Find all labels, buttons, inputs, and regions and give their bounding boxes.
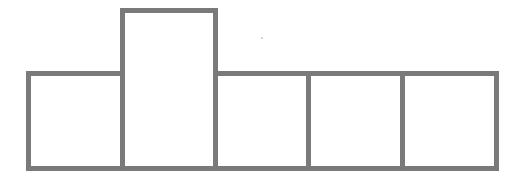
- rectangle-cell-3: [213, 71, 311, 171]
- noise-speck: [261, 37, 263, 39]
- rectangle-cell-4: [306, 71, 405, 171]
- rectangle-cell-2-tall: [120, 8, 218, 171]
- rectangle-cell-5: [400, 71, 499, 171]
- diagram-canvas: [0, 0, 522, 183]
- rectangle-cell-1: [26, 71, 125, 171]
